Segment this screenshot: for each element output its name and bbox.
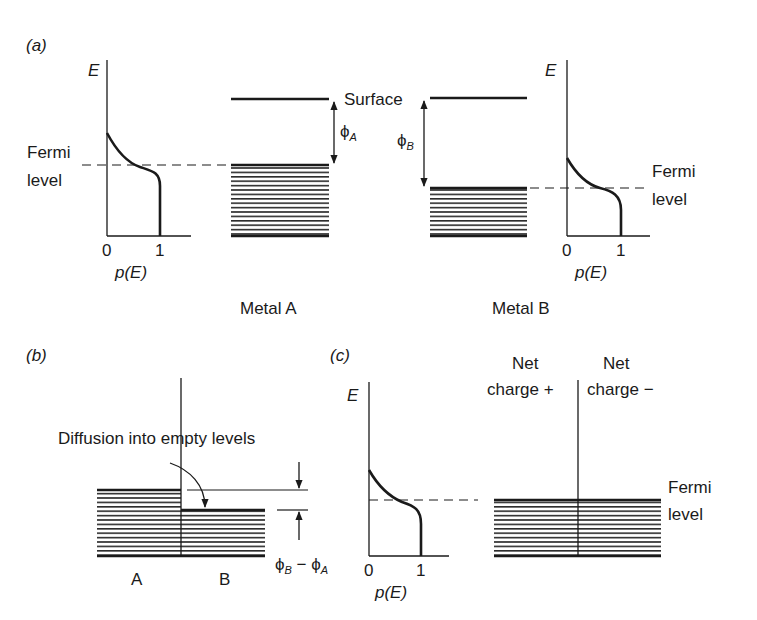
fermi-label-b-1: Fermi [652,163,695,180]
diffusion-label: Diffusion into empty levels [58,430,255,447]
fermi-dirac-curve-c [369,470,421,556]
tick-0-c: 0 [364,562,373,579]
p-axis-label-b: p(E) [575,264,607,281]
filled-levels-b [430,187,527,236]
metal-a-bands [231,99,334,236]
phi-b-label: ϕB [397,132,414,152]
metal-b-levels [181,509,265,556]
e-axis-label-b: E [545,62,556,79]
p-axis-label-a: p(E) [115,264,147,281]
panel-b-label: (b) [26,347,47,364]
tick-0-b: 0 [562,242,571,259]
contact-diagram-b [97,378,308,556]
surface-label: Surface [344,91,403,108]
metal-b-bands [424,98,527,236]
fermi-label-a-2: level [27,172,62,189]
net-plus-label-1: Net [512,355,538,372]
equilibrium-bands-c [494,380,661,556]
equilibrium-graph-c [369,382,478,556]
fermi-dirac-curve-a [107,133,160,236]
fermi-label-b-2: level [652,191,687,208]
filled-levels-a [231,164,329,236]
e-axis-label-c: E [347,387,358,404]
phi-a-label: ϕA [340,123,357,143]
net-minus-label-2: charge − [587,381,654,398]
side-b-label: B [219,571,230,588]
metal-a-label: Metal A [240,300,297,317]
p-axis-label-c: p(E) [375,584,407,601]
tick-1-a: 1 [155,242,164,259]
panel-a-label: (a) [26,37,47,54]
fermi-label-c-2: level [668,506,703,523]
fermi-label-c-1: Fermi [668,479,711,496]
e-axis-label-a: E [88,62,99,79]
panel-c-label: (c) [330,347,350,364]
net-plus-label-2: charge + [487,381,554,398]
tick-1-b: 1 [616,242,625,259]
tick-1-c: 1 [416,562,425,579]
metal-b-distribution-graph [530,60,650,236]
tick-0-a: 0 [102,242,111,259]
net-minus-label-1: Net [603,355,629,372]
fermi-label-a-1: Fermi [27,144,70,161]
metal-a-distribution-graph [82,60,230,236]
side-a-label: A [131,571,142,588]
metal-a-levels [97,489,181,556]
work-function-difference-label: ϕB − ϕA [275,556,328,576]
fermi-dirac-curve-b [567,158,621,236]
metal-b-label: Metal B [492,300,550,317]
